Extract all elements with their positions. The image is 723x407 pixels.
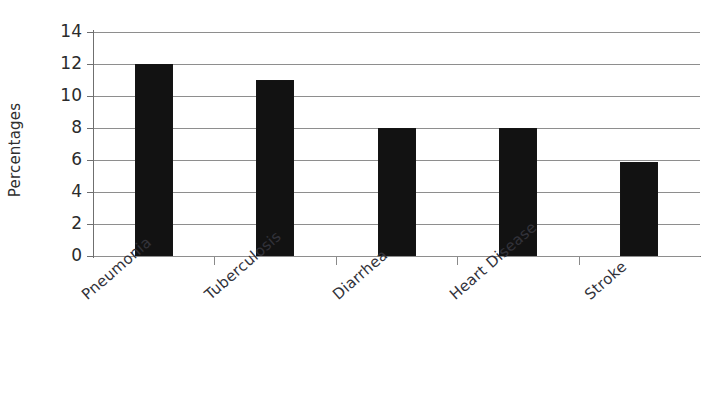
x-axis-tick bbox=[336, 257, 337, 265]
y-axis-tick bbox=[87, 224, 94, 225]
y-axis-tick bbox=[87, 160, 94, 161]
y-axis-tick-label: 6 bbox=[36, 151, 82, 168]
y-axis-tick-labels: 14121086420 bbox=[26, 0, 82, 300]
y-axis-tick bbox=[87, 256, 94, 257]
y-axis-tick-label: 4 bbox=[36, 183, 82, 200]
x-axis-tick bbox=[214, 257, 215, 265]
gridline bbox=[93, 256, 700, 257]
bar[interactable] bbox=[378, 128, 416, 256]
y-axis-tick bbox=[87, 32, 94, 33]
bar[interactable] bbox=[135, 64, 173, 256]
gridline bbox=[93, 32, 700, 33]
y-axis-tick-label: 14 bbox=[36, 23, 82, 40]
y-axis-tick-label: 0 bbox=[36, 247, 82, 264]
y-axis-tick bbox=[87, 128, 94, 129]
y-axis-tick bbox=[87, 64, 94, 65]
y-axis-tick bbox=[87, 96, 94, 97]
x-axis-tick bbox=[457, 257, 458, 265]
y-axis-tick-label: 12 bbox=[36, 55, 82, 72]
y-axis-tick-label: 8 bbox=[36, 119, 82, 136]
gridline bbox=[93, 64, 700, 65]
y-axis-tick-label: 2 bbox=[36, 215, 82, 232]
y-axis-tick-label: 10 bbox=[36, 87, 82, 104]
gridline bbox=[93, 96, 700, 97]
x-axis-category-label: Stroke bbox=[581, 257, 630, 303]
plot-area bbox=[93, 32, 700, 256]
y-axis-tick bbox=[87, 192, 94, 193]
x-axis-tick bbox=[579, 257, 580, 265]
chart-canvas: Percentages 14121086420 PneumoniaTubercu… bbox=[0, 0, 723, 407]
bar[interactable] bbox=[620, 162, 658, 256]
